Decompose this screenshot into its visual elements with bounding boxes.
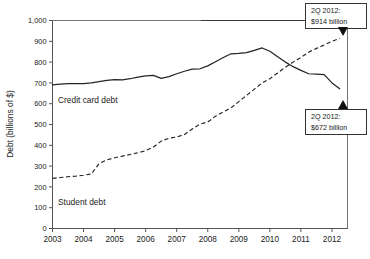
x-tick-label: 2005 — [105, 235, 124, 244]
y-tick-label: 0 — [42, 224, 46, 233]
x-tick-label: 2008 — [199, 235, 218, 244]
x-tick-label: 2012 — [323, 235, 342, 244]
y-tick-label: 600 — [34, 99, 46, 108]
student-debt-line — [53, 38, 340, 178]
y-axis-title: Debt (billions of $) — [5, 90, 15, 158]
y-tick-label: 1,000 — [28, 16, 47, 25]
x-tick-label: 2010 — [261, 235, 280, 244]
x-axis: 2003200420052006200720082009201020112012 — [43, 229, 341, 244]
x-tick-label: 2003 — [43, 235, 62, 244]
y-tick-label: 100 — [34, 203, 46, 212]
y-tick-label: 700 — [34, 79, 46, 88]
credit-card-debt-line — [53, 48, 340, 89]
credit-card-debt-callout: 2Q 2012: $672 billion — [306, 100, 367, 135]
y-tick-label: 200 — [34, 183, 46, 192]
debt-line-chart: 01002003004005006007008009001,000 200320… — [0, 0, 370, 259]
x-tick-label: 2006 — [137, 235, 156, 244]
y-tick-label: 800 — [34, 58, 46, 67]
triangle-up-icon — [338, 100, 348, 109]
student-debt-callout: 2Q 2012: $914 billion — [201, 4, 367, 37]
x-tick-label: 2007 — [168, 235, 187, 244]
y-axis: 01002003004005006007008009001,000 — [28, 16, 53, 233]
triangle-down-icon — [338, 27, 348, 36]
series-group — [53, 38, 340, 178]
y-tick-label: 500 — [34, 120, 46, 129]
x-tick-label: 2009 — [230, 235, 249, 244]
y-tick-label: 900 — [34, 37, 46, 46]
x-tick-label: 2011 — [292, 235, 310, 244]
y-tick-label: 300 — [34, 162, 46, 171]
credit-card-debt-label: Credit card debt — [58, 95, 118, 105]
chart-canvas: 01002003004005006007008009001,000 200320… — [0, 0, 370, 259]
callout-bottom-line1: 2Q 2012: — [311, 112, 341, 121]
callout-top-line2: $914 billion — [311, 17, 347, 26]
callout-top-line1: 2Q 2012: — [311, 6, 341, 15]
x-tick-label: 2004 — [74, 235, 93, 244]
y-tick-label: 400 — [34, 141, 46, 150]
student-debt-label: Student debt — [58, 197, 106, 207]
callout-bottom-line2: $672 billion — [311, 123, 347, 132]
